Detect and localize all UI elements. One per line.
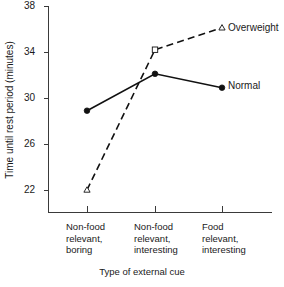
marker-normal-1 [152, 71, 158, 77]
marker-normal-2 [219, 85, 225, 91]
x-category-label-2-line1: relevant, [202, 233, 246, 245]
x-category-label-0: Non-food relevant, boring [66, 221, 105, 256]
x-category-label-2: Food relevant, interesting [202, 221, 246, 256]
x-category-label-1-line1: relevant, [134, 233, 178, 245]
chart-figure: Time until rest period (minutes) 22 26 3… [0, 0, 284, 287]
x-category-label-0-line0: Non-food [66, 221, 105, 233]
marker-overweight-0 [84, 187, 90, 192]
series-line-normal [87, 74, 222, 111]
x-category-label-1-line2: interesting [134, 244, 178, 256]
x-category-label-0-line1: relevant, [66, 233, 105, 245]
y-tick-label-34: 34 [24, 47, 35, 57]
x-category-label-2-line0: Food [202, 221, 246, 233]
x-category-label-2-line2: interesting [202, 244, 246, 256]
x-category-label-0-line2: boring [66, 244, 105, 256]
x-category-label-1-line0: Non-food [134, 221, 178, 233]
series-label-normal: Normal [228, 81, 260, 91]
marker-overweight-2 [219, 25, 225, 30]
series-label-overweight: Overweight [228, 23, 279, 33]
marker-overweight-1 [152, 47, 157, 52]
x-axis-title: Type of external cue [0, 266, 284, 277]
y-tick-label-38: 38 [24, 1, 35, 11]
marker-normal-0 [84, 108, 90, 114]
y-tick-label-26: 26 [24, 139, 35, 149]
y-tick-label-22: 22 [24, 185, 35, 195]
x-category-label-1: Non-food relevant, interesting [134, 221, 178, 256]
y-axis-title: Time until rest period (minutes) [4, 41, 15, 178]
y-tick-label-30: 30 [24, 93, 35, 103]
